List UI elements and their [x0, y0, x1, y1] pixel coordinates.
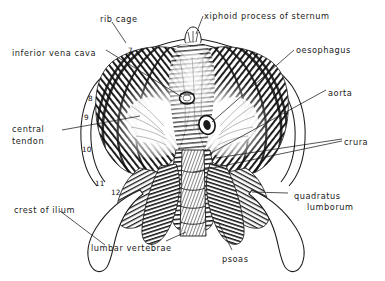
leader-lumbar-vertebrae — [166, 232, 186, 241]
label-lumbar-vertebrae: lumbar vertebrae — [91, 243, 172, 254]
label-aorta: aorta — [328, 88, 352, 99]
rib-number-11: 11 — [95, 179, 104, 188]
label-quadratus-line2: lumborum — [307, 202, 354, 213]
lumbar-vertebral-col — [180, 150, 206, 236]
label-central-tendon-line2: tendon — [12, 136, 44, 147]
label-oesophagus: oesophagus — [296, 45, 351, 56]
diaphragm-illustration — [0, 0, 385, 281]
rib-number-7: 7 — [128, 46, 133, 55]
label-psoas: psoas — [222, 254, 249, 265]
rib-number-10: 10 — [82, 145, 91, 154]
caval-opening — [180, 92, 195, 104]
rib-number-12: 12 — [111, 188, 120, 197]
label-inferior-vena-cava: inferior vena cava — [12, 48, 96, 59]
label-rib-cage: rib cage — [100, 14, 138, 25]
label-crest-of-ilium: crest of ilium — [14, 205, 75, 216]
anatomical-figure: rib cage xiphoid process of sternum infe… — [0, 0, 385, 281]
rib-number-9: 9 — [84, 113, 89, 122]
label-central-tendon-line1: central — [12, 124, 44, 135]
label-xiphoid-process: xiphoid process of sternum — [204, 11, 330, 22]
leader-rib-cage — [112, 22, 126, 43]
rib-number-8: 8 — [88, 94, 93, 103]
label-crura: crura — [344, 137, 368, 148]
label-quadratus-line1: quadratus — [294, 191, 341, 202]
